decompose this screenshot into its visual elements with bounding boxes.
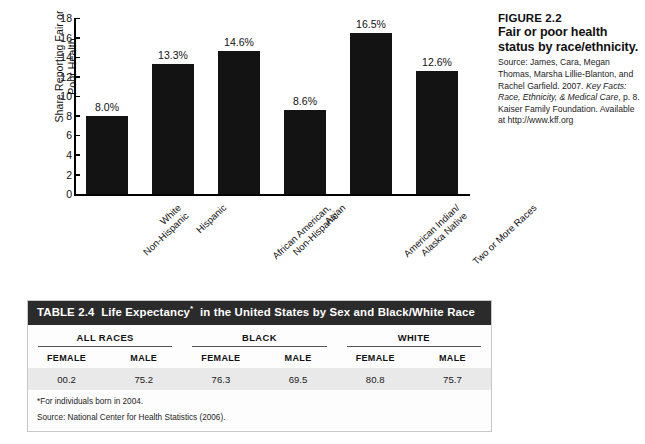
- table-column-header: FEMALE: [337, 347, 414, 368]
- table-group-header-label: ALL RACES: [38, 332, 172, 347]
- table-body: ALL RACESBLACKWHITEFEMALEMALEFEMALEMALEF…: [28, 325, 491, 390]
- y-axis-tick-mark: [75, 115, 80, 117]
- bar-rect: [284, 110, 326, 194]
- table-title-asterisk: *: [190, 304, 193, 313]
- y-axis-tick-mark: [75, 154, 80, 156]
- bar-rect: [218, 51, 260, 194]
- y-axis-tick-label: 12: [60, 72, 75, 83]
- y-axis-tick-mark: [75, 174, 80, 176]
- table-notes: *For individuals born in 2004.Source: Na…: [28, 390, 491, 431]
- life-expectancy-table: ALL RACESBLACKWHITEFEMALEMALEFEMALEMALEF…: [28, 325, 491, 390]
- bar: 13.3%: [152, 64, 194, 194]
- y-axis-tick-mark: [75, 135, 80, 137]
- table-title-bar: TABLE 2.4 Life Expectancy* in the United…: [28, 301, 491, 325]
- bar: 16.5%: [350, 33, 392, 194]
- figure-source-title: Key Facts: Race, Ethnicity, & Medical Ca…: [498, 81, 627, 103]
- y-axis-tick-label: 6: [66, 130, 75, 141]
- bar: 14.6%: [218, 51, 260, 194]
- table-group-header: ALL RACES: [28, 325, 182, 347]
- bar-value-label: 8.6%: [293, 95, 317, 107]
- bar: 8.6%: [284, 110, 326, 194]
- table-group-header: BLACK: [182, 325, 336, 347]
- figure-caption: FIGURE 2.2 Fair or poor health status by…: [498, 11, 641, 127]
- y-axis-tick: 6: [42, 135, 80, 136]
- y-axis-tick-mark: [75, 37, 80, 39]
- table-column-header: MALE: [259, 347, 336, 368]
- table-column-header: FEMALE: [182, 347, 259, 368]
- y-axis-tick-mark: [75, 18, 80, 20]
- figure-number: FIGURE 2.2: [498, 11, 641, 25]
- table-cell: 75.7: [414, 368, 491, 390]
- x-axis-category-label: American Indian/Alaska Native: [401, 202, 469, 267]
- x-axis-category-label: Hispanic: [194, 202, 228, 235]
- bar: 8.0%: [86, 116, 128, 194]
- figure-source: Source: James, Cara, Megan Thomas, Marsh…: [498, 57, 641, 127]
- y-axis-tick: 12: [42, 77, 80, 78]
- table-column-header: FEMALE: [28, 347, 105, 368]
- y-axis-tick: 4: [42, 155, 80, 156]
- y-axis-tick-mark: [75, 96, 80, 98]
- table-group-header-row: ALL RACESBLACKWHITE: [28, 325, 491, 347]
- table-column-header-row: FEMALEMALEFEMALEMALEFEMALEMALE: [28, 347, 491, 368]
- y-axis-tick-label: 10: [60, 91, 75, 102]
- bar-value-label: 13.3%: [158, 49, 188, 61]
- bar: 12.6%: [416, 71, 458, 194]
- y-axis-tick-label: 2: [66, 170, 75, 181]
- table-cell: 69.5: [259, 368, 336, 390]
- y-axis-tick: 8: [42, 116, 80, 117]
- bar-rect: [152, 64, 194, 194]
- y-axis-tick-mark: [75, 194, 80, 196]
- table-title-main-1: Life Expectancy: [101, 306, 190, 318]
- y-axis-tick-label: 16: [60, 33, 75, 44]
- table-column-header: MALE: [105, 347, 182, 368]
- bar-value-label: 8.0%: [95, 101, 119, 113]
- table-group-header-label: BLACK: [192, 332, 326, 347]
- bar-value-label: 16.5%: [356, 18, 386, 30]
- table-cell: 76.3: [182, 368, 259, 390]
- bar-value-label: 14.6%: [224, 36, 254, 48]
- table-column-header: MALE: [414, 347, 491, 368]
- table-note: Source: National Center for Health Stati…: [37, 412, 482, 423]
- y-axis-tick-label: 4: [66, 150, 75, 161]
- y-axis-tick-label: 8: [66, 111, 75, 122]
- table-cell: 80.8: [337, 368, 414, 390]
- bar-chart: Share Reporting Fair or Poor Health 1816…: [28, 8, 488, 283]
- y-axis-tick-label: 14: [60, 52, 75, 63]
- y-axis-tick: 16: [42, 38, 80, 39]
- y-axis-tick: 10: [42, 96, 80, 97]
- y-axis-tick-label: 18: [60, 13, 75, 24]
- y-axis-tick-label: 0: [66, 189, 75, 200]
- table-title-main-2: in the United States by Sex and Black/Wh…: [200, 306, 475, 318]
- x-axis-category-label-line: Hispanic: [194, 202, 228, 235]
- y-axis-tick: 0: [42, 194, 80, 195]
- table-group-header-label: WHITE: [347, 332, 481, 347]
- table-note: *For individuals born in 2004.: [37, 396, 482, 407]
- x-axis-category-label: Two or More Races: [470, 202, 538, 267]
- table-cell: 75.2: [105, 368, 182, 390]
- y-axis-tick-mark: [75, 76, 80, 78]
- figure-block: Share Reporting Fair or Poor Health 1816…: [0, 0, 645, 285]
- table-2-4: TABLE 2.4 Life Expectancy* in the United…: [27, 300, 492, 432]
- chart-plot-area: 181614121086420 8.0%13.3%14.6%8.6%16.5%1…: [74, 18, 470, 196]
- table-cell: 00.2: [28, 368, 105, 390]
- bar-rect: [416, 71, 458, 194]
- x-axis-category-label: WhiteNon-Hispanic: [133, 202, 190, 257]
- table-group-header: WHITE: [337, 325, 491, 347]
- x-axis-category-label-line: Two or More Races: [470, 202, 538, 267]
- table-row: 00.275.276.369.580.875.7: [28, 368, 491, 390]
- bar-rect: [86, 116, 128, 194]
- y-axis-tick-mark: [75, 57, 80, 59]
- y-axis-tick: 2: [42, 174, 80, 175]
- table-number: TABLE 2.4: [37, 306, 94, 318]
- x-axis-baseline: [74, 194, 470, 196]
- bar-value-label: 12.6%: [422, 56, 452, 68]
- y-axis-tick: 14: [42, 57, 80, 58]
- bar-rect: [350, 33, 392, 194]
- y-axis-tick: 18: [42, 18, 80, 19]
- figure-title: Fair or poor health status by race/ethni…: [498, 25, 641, 55]
